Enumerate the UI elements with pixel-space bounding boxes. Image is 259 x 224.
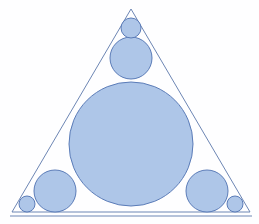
apex-medium-circle <box>110 37 152 79</box>
left-medium-circle <box>34 170 76 212</box>
figure-canvas <box>0 0 259 224</box>
large-incircle <box>69 82 193 206</box>
apex-small-circle <box>121 18 141 38</box>
geometry-figure <box>0 0 259 224</box>
left-corner-small-circle <box>19 196 35 212</box>
right-medium-circle <box>186 170 228 212</box>
right-corner-small-circle <box>227 196 243 212</box>
circle-group <box>19 18 243 212</box>
